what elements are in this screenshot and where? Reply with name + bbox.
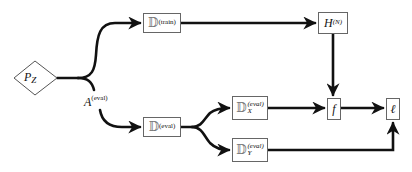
source-node: PZ <box>24 70 36 85</box>
model-symbol: f <box>332 102 335 117</box>
split-label: A(eval) <box>84 95 108 110</box>
eval-data-symbol: 𝔻 <box>149 120 159 134</box>
eval-data-node: 𝔻(eval) <box>143 117 181 137</box>
eval-y-subscript: Y <box>248 150 264 157</box>
hypothesis-node: H(N) <box>318 12 348 34</box>
loss-node: ℓ <box>386 98 400 120</box>
eval-x-subscript: X <box>248 108 264 115</box>
edge-y-to-loss <box>268 123 393 150</box>
eval-x-node: 𝔻(eval)X <box>232 96 268 120</box>
model-node: f <box>327 98 341 120</box>
edge-source-to-eval-stub <box>78 78 94 90</box>
split-label-superscript: (eval) <box>91 94 107 102</box>
edge-source-to-train <box>78 23 140 78</box>
train-data-symbol: 𝔻 <box>148 16 158 30</box>
connection-wires <box>0 0 412 172</box>
edge-source-to-eval <box>100 110 140 127</box>
eval-y-node: 𝔻(eval)Y <box>232 138 268 162</box>
loss-symbol: ℓ <box>391 102 396 117</box>
edge-eval-to-x <box>192 108 229 127</box>
edge-eval-to-y <box>192 127 229 150</box>
hypothesis-symbol: H <box>324 16 333 31</box>
eval-y-symbol: 𝔻 <box>236 143 246 157</box>
eval-x-symbol: 𝔻 <box>236 101 246 115</box>
source-subscript: Z <box>31 75 36 85</box>
train-data-node: 𝔻(train) <box>143 13 181 33</box>
